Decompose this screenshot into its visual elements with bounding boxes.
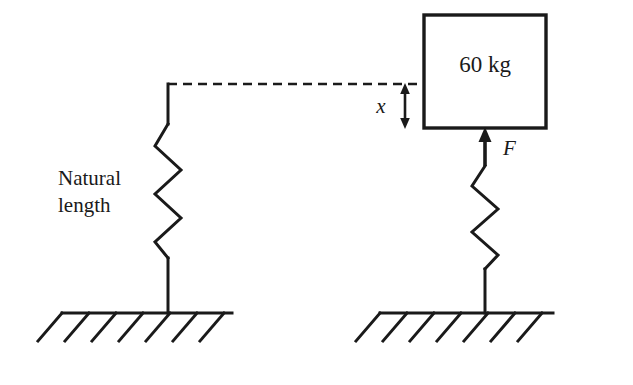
left-ground-hatching — [38, 313, 224, 341]
right-spring-assembly: 60 kg x F — [356, 15, 553, 341]
left-spring-assembly: Natural length — [38, 84, 232, 341]
right-spring-coil — [472, 166, 498, 269]
physics-diagram: Natural length 60 kg x F — [0, 0, 633, 385]
natural-length-label-line1: Natural — [58, 166, 121, 190]
applied-force-vector: F — [479, 127, 517, 166]
right-ground-hatching — [356, 313, 542, 341]
force-label: F — [502, 136, 516, 160]
left-spring-coil — [155, 124, 181, 258]
diagram-canvas: Natural length 60 kg x F — [0, 0, 633, 385]
displacement-arrowhead-down — [400, 118, 410, 129]
natural-length-label-line2: length — [58, 193, 111, 217]
displacement-dimension: x — [375, 83, 409, 129]
displacement-label: x — [375, 94, 386, 118]
mass-block-label: 60 kg — [459, 52, 511, 77]
